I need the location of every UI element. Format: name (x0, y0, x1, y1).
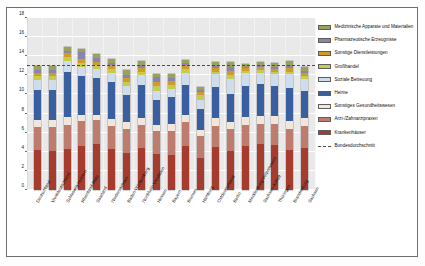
bar-segment (138, 118, 145, 125)
bar-segment (108, 149, 115, 190)
bar-segment (64, 72, 71, 118)
legend-item[interactable]: Krankenhäuser (318, 130, 418, 137)
stacked-bar[interactable] (168, 74, 175, 190)
legend-color-swatch-icon (318, 130, 331, 135)
bar-segment (212, 126, 219, 147)
bar-slot (193, 18, 208, 190)
legend-item-label: Arzt-/Zahnarztpraxen (335, 116, 378, 122)
bar-segment (34, 80, 41, 90)
bar-slot (30, 18, 45, 190)
bar-segment (93, 69, 100, 79)
bar-segment (257, 84, 264, 116)
bar-segment (227, 94, 234, 122)
bar-slot (297, 18, 312, 190)
stacked-bar[interactable] (227, 62, 234, 190)
legend-item[interactable]: Arzt-/Zahnarztpraxen (318, 116, 418, 123)
legend-item[interactable]: Soziale Betreuung (318, 77, 418, 84)
bar-segment (182, 73, 189, 85)
bar-segment (123, 95, 130, 122)
bar-slot (89, 18, 104, 190)
y-axis-tick-label: 12 (19, 68, 27, 73)
stacked-bar[interactable] (242, 64, 249, 190)
bar-segment (227, 129, 234, 151)
legend-color-swatch-icon (318, 38, 331, 43)
bar-segment (123, 122, 130, 129)
legend-item-label: Bundesdurchschnitt (335, 143, 375, 149)
vertical-gridline (315, 18, 316, 190)
stacked-bar[interactable] (271, 63, 278, 190)
bar-segment (49, 127, 56, 151)
bar-segment (227, 79, 234, 94)
bar-segment (197, 100, 204, 109)
legend-item-label: Großhandel (335, 64, 359, 70)
legend-item-label: Pharmazeutische Erzeugnisse (335, 37, 397, 43)
stacked-bar[interactable] (49, 66, 56, 190)
bar-segment (212, 118, 219, 126)
bar-segment (168, 124, 175, 131)
y-axis-tick-label: 10 (19, 87, 27, 92)
bar-segment (34, 150, 41, 190)
bar-segment (212, 147, 219, 190)
legend-item[interactable]: Großhandel (318, 64, 418, 71)
bar-segment (108, 126, 115, 149)
stacked-bar[interactable] (93, 54, 100, 190)
bar-segment (286, 129, 293, 150)
bar-segment (301, 118, 308, 126)
bar-segment (197, 109, 204, 130)
bar-segment (108, 119, 115, 126)
bar-segment (242, 73, 249, 85)
bar-segment (138, 75, 145, 85)
legend-item[interactable]: Sonstige Dienstleistungen (318, 50, 418, 57)
bar-segment (286, 121, 293, 129)
bar-slot (134, 18, 149, 190)
stacked-bar[interactable] (197, 87, 204, 190)
legend-item[interactable]: Heime (318, 90, 418, 97)
bar-segment (34, 90, 41, 121)
legend-item[interactable]: Medizinische Apparate und Materialien (318, 24, 418, 31)
legend-color-swatch-icon (318, 25, 331, 30)
y-axis-tick-label: 14 (19, 49, 27, 54)
legend-item[interactable]: Sonstiges Gesundheitswesen (318, 103, 418, 110)
stacked-bar[interactable] (301, 67, 308, 190)
bar-segment (78, 52, 85, 59)
bar-segment (182, 115, 189, 122)
stacked-bar[interactable] (123, 70, 130, 190)
bar-segment (301, 91, 308, 119)
bar-segment (138, 85, 145, 118)
bar-segment (197, 158, 204, 190)
bar-slot (75, 18, 90, 190)
bar-slot (223, 18, 238, 190)
bar-segment (153, 131, 160, 154)
bar-segment (108, 82, 115, 119)
legend-item[interactable]: Pharmazeutische Erzeugnisse (318, 37, 418, 44)
bar-segment (242, 146, 249, 190)
stacked-bar[interactable] (212, 62, 219, 190)
legend-color-swatch-icon (318, 64, 331, 69)
bar-segment (93, 120, 100, 144)
bar-segment (64, 117, 71, 125)
bar-segment (301, 79, 308, 90)
bar-segment (271, 74, 278, 85)
stacked-bar[interactable] (108, 59, 115, 190)
bar-segment (49, 90, 56, 121)
stacked-bar[interactable] (286, 61, 293, 190)
stacked-bar[interactable] (257, 62, 264, 190)
legend-color-swatch-icon (318, 91, 331, 96)
legend-color-swatch-icon (318, 77, 331, 82)
stacked-bar[interactable] (64, 47, 71, 190)
legend-item[interactable]: Bundesdurchschnitt (318, 143, 418, 150)
bar-segment (182, 85, 189, 116)
legend-item-label: Heime (335, 90, 348, 96)
bar-segment (34, 127, 41, 150)
bar-segment (168, 97, 175, 124)
bar-segment (138, 125, 145, 148)
bar-slot (282, 18, 297, 190)
legend-item-label: Soziale Betreuung (335, 77, 373, 83)
bar-segment (64, 61, 71, 72)
stacked-bar[interactable] (182, 60, 189, 190)
bar-slot (149, 18, 164, 190)
bar-segment (271, 124, 278, 145)
bar-segment (242, 117, 249, 125)
bar-segment (168, 89, 175, 98)
stacked-bar[interactable] (34, 66, 41, 190)
